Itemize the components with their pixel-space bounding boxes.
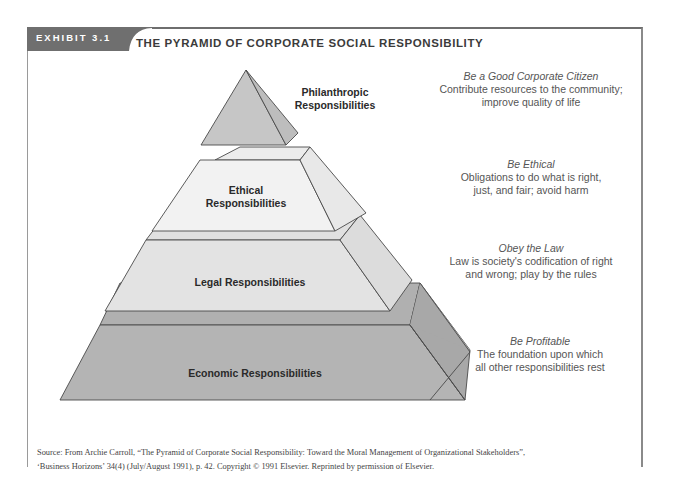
philanthropic-label-line1: Philanthropic: [301, 86, 368, 98]
economic-description: Be Profitable The foundation upon which …: [445, 335, 635, 374]
economic-desc-heading: Be Profitable: [445, 335, 635, 348]
philanthropic-label-line2: Responsibilities: [295, 99, 376, 111]
legal-description: Obey the Law Law is society's codificati…: [431, 242, 631, 281]
legal-desc-line1: Law is society's codification of right: [431, 255, 631, 268]
ethical-label-line1: Ethical: [229, 184, 263, 196]
legal-desc-heading: Obey the Law: [431, 242, 631, 255]
source-line1: Source: From Archie Carroll, “The Pyrami…: [37, 446, 637, 460]
economic-desc-line2: all other responsibilities rest: [445, 361, 635, 374]
philanthropic-label: Philanthropic Responsibilities: [275, 86, 395, 112]
ethical-desc-line2: just, and fair; avoid harm: [431, 184, 631, 197]
economic-desc-line1: The foundation upon which: [445, 348, 635, 361]
ethical-description: Be Ethical Obligations to do what is rig…: [431, 158, 631, 197]
philanthropic-description: Be a Good Corporate Citizen Contribute r…: [431, 70, 631, 109]
source-citation: Source: From Archie Carroll, “The Pyrami…: [37, 446, 637, 473]
legal-label: Legal Responsibilities: [170, 276, 330, 289]
legal-desc-line2: and wrong; play by the rules: [431, 268, 631, 281]
ethical-desc-heading: Be Ethical: [431, 158, 631, 171]
source-line2: ‘Business Horizons’ 34(4) (July/August 1…: [37, 460, 637, 474]
economic-label: Economic Responsibilities: [170, 367, 340, 380]
ethical-label-line2: Responsibilities: [206, 197, 287, 209]
philanthropic-desc-heading: Be a Good Corporate Citizen: [431, 70, 631, 83]
philanthropic-desc-line1: Contribute resources to the community;: [431, 83, 631, 96]
ethical-desc-line1: Obligations to do what is right,: [431, 171, 631, 184]
ethical-label: Ethical Responsibilities: [186, 184, 306, 210]
philanthropic-desc-line2: improve quality of life: [431, 96, 631, 109]
